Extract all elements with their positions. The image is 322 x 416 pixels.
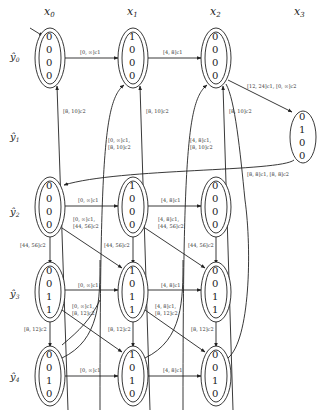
svg-text:1: 1 [46,291,52,302]
edge-n41-up-curve [145,260,183,358]
svg-text:0: 0 [46,219,52,230]
svg-text:0: 0 [212,193,218,204]
edge-label: [0, ∞]c1 [80,49,100,55]
svg-text:0: 0 [212,57,218,68]
svg-text:0: 0 [46,193,52,204]
svg-text:1: 1 [129,291,135,302]
svg-text:0: 0 [46,388,52,399]
state-node: 1 0 0 0 [118,177,148,237]
column-headers: x0 x1 x2 x3 [44,5,305,19]
svg-text:0: 0 [129,44,135,55]
column-label-x3: x3 [294,5,305,19]
state-node: 0 1 0 0 [290,111,316,163]
edge-label: [0, ∞]c1 [80,367,100,373]
svg-text:0: 0 [129,362,135,373]
edge-label: [44, 56]c2 [20,242,46,248]
edge-label: [4, 8]c1, [158,216,179,222]
state-node: 0 0 0 0 [35,177,65,237]
svg-text:0: 0 [129,219,135,230]
state-node: 0 0 1 0 [201,346,231,406]
svg-text:0: 0 [212,349,218,360]
edge-label: [0, ∞]c1, [73,216,95,222]
svg-text:0: 0 [46,349,52,360]
svg-text:0: 0 [46,57,52,68]
svg-text:0: 0 [212,70,218,81]
svg-text:0: 0 [129,278,135,289]
edge-label: [8, 12]c2 [155,310,178,316]
edge-label: [8, 12]c2 [191,326,214,332]
svg-text:0: 0 [46,70,52,81]
svg-text:1: 1 [129,180,135,191]
svg-text:0: 0 [212,278,218,289]
svg-text:1: 1 [212,304,218,315]
state-node: 1 0 0 0 [118,28,148,88]
edge-n21-n32 [145,228,205,268]
svg-text:1: 1 [129,265,135,276]
edge-label: [8, 12]c2 [72,310,95,316]
svg-text:1: 1 [129,31,135,42]
svg-text:0: 0 [46,265,52,276]
edge-label: [0, ∞]c1, [72,303,94,309]
state-node: 1 0 1 1 [118,262,148,322]
svg-text:1: 1 [212,291,218,302]
svg-text:0: 0 [129,206,135,217]
timed-automaton-diagram: x0 x1 x2 x3 ŷ0 ŷ1 ŷ2 ŷ3 ŷ4 [0,0,322,416]
edge-label: [4, 8]c1 [161,197,180,203]
edge-label: [8, 8]c1, [8, 8]c2 [247,171,289,177]
edge-label: [8, 10]c2 [108,144,131,150]
svg-text:0: 0 [299,137,305,148]
state-node: 0 0 1 1 [35,262,65,322]
edge-n40-up-curve [62,260,100,358]
row-label-y4: ŷ4 [9,371,20,383]
edge-label: [0, ∞]c1, [108,137,130,143]
state-node: 0 0 0 0 [201,177,231,237]
edge-label: [8, 12]c2 [24,326,47,332]
edge-n20-n31 [62,228,122,268]
svg-text:1: 1 [46,304,52,315]
edge-label: [8, 10]c2 [190,144,213,150]
row-labels: ŷ0 ŷ1 ŷ2 ŷ3 ŷ4 [9,51,20,383]
svg-text:0: 0 [299,150,305,161]
svg-text:0: 0 [46,278,52,289]
svg-text:0: 0 [212,362,218,373]
svg-text:0: 0 [46,31,52,42]
svg-text:0: 0 [129,57,135,68]
svg-text:1: 1 [129,375,135,386]
row-label-y2: ŷ2 [9,206,20,218]
edge-label: [44, 56]c2 [188,242,214,248]
svg-text:0: 0 [46,206,52,217]
svg-text:0: 0 [299,111,305,122]
svg-text:0: 0 [212,31,218,42]
svg-text:1: 1 [129,304,135,315]
edge-label: [8, 10]c2 [146,108,169,114]
svg-text:1: 1 [46,375,52,386]
edge-label: [4, 8]c1 [163,49,182,55]
svg-text:0: 0 [212,265,218,276]
edge-label: [8, 10]c2 [63,108,86,114]
svg-text:1: 1 [129,349,135,360]
edge-label: [44, 56]c2 [73,223,99,229]
state-node: 0 0 0 0 [201,28,231,88]
state-node: 0 0 0 0 [35,28,65,88]
edge-label: [0, ∞]c1 [78,197,98,203]
svg-text:0: 0 [212,180,218,191]
svg-text:0: 0 [129,193,135,204]
svg-text:0: 0 [129,70,135,81]
svg-text:0: 0 [212,44,218,55]
edge-label: [8, 12]c2 [108,326,131,332]
svg-text:0: 0 [46,180,52,191]
state-node: 0 0 1 0 [35,346,65,406]
column-label-x2: x2 [210,5,221,19]
edge-label: [8, 10]c2 [229,108,252,114]
svg-text:0: 0 [46,44,52,55]
edge-label: [0, ∞]c1 [78,282,98,288]
state-node: 1 0 1 0 [118,346,148,406]
svg-text:0: 0 [129,388,135,399]
edge-label: [44, 56]c2 [158,223,184,229]
svg-text:1: 1 [299,124,305,135]
svg-text:0: 0 [46,362,52,373]
column-label-x0: x0 [44,5,55,19]
svg-text:1: 1 [212,375,218,386]
edge-label: [12, 24]c1, [0, ∞]c2 [247,83,296,89]
svg-text:0: 0 [212,388,218,399]
